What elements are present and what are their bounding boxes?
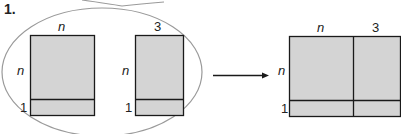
result-top-label-3: 3 (372, 20, 379, 35)
rect-a-top-label: n (58, 19, 65, 34)
rect-a-side-label-n: n (17, 63, 24, 78)
rect-n-by-n-plus-1 (31, 36, 95, 116)
diagram-svg: 1. n n 1 3 n 1 n 3 (0, 0, 401, 134)
rect-b-top-label: 3 (154, 19, 161, 34)
diagram-canvas: 1. n n 1 3 n 1 n 3 (0, 0, 401, 134)
rect-n-plus-3-by-n-plus-1 (290, 37, 401, 117)
result-side-label-1: 1 (281, 101, 288, 116)
rect-a-side-label-1: 1 (20, 100, 27, 115)
rect-3-by-n-plus-1 (136, 36, 184, 116)
right-arrow-icon (213, 73, 269, 79)
rect-b-side-label-n: n (122, 63, 129, 78)
problem-number: 1. (4, 1, 16, 17)
result-top-label-n: n (317, 20, 324, 35)
result-side-label-n: n (278, 63, 285, 78)
ellipse-cross-stroke (82, 0, 164, 6)
rect-b-side-label-1: 1 (125, 100, 132, 115)
